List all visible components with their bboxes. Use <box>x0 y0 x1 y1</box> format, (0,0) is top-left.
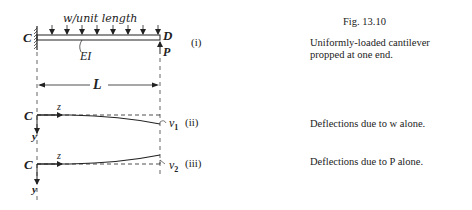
left-end-label: C <box>23 30 32 46</box>
origin-label: C <box>24 157 33 173</box>
stiffness-label: EI <box>80 49 91 64</box>
figure-caption-line-2: propped at one end. <box>310 49 393 61</box>
deflection-label: v1 <box>169 116 178 132</box>
beam-diagram <box>0 0 472 210</box>
diagram-tag-iii: (iii) <box>185 157 202 169</box>
deflection-subscript: 2 <box>174 165 178 174</box>
y-axis-label: y <box>32 183 37 195</box>
prop-force-label: P <box>163 45 170 60</box>
load-label: w/unit length <box>63 12 137 25</box>
cantilever-beam <box>34 25 160 200</box>
right-end-label: D <box>163 28 172 44</box>
figure-number: Fig. 13.10 <box>343 16 386 28</box>
span-label: L <box>93 77 102 93</box>
deflection-label: v2 <box>169 158 178 174</box>
z-axis-label: z <box>57 150 61 161</box>
diagram-tag-i: (i) <box>191 36 201 48</box>
z-axis-label: z <box>57 101 61 112</box>
deflected-curve-w <box>37 115 160 124</box>
diagram-tag-ii: (ii) <box>185 116 198 128</box>
caption-iii: Deflections due to P alone. <box>310 156 423 168</box>
distributed-load-arrows <box>52 25 158 34</box>
y-axis-label: y <box>32 130 37 142</box>
deflected-curve-p <box>37 155 160 164</box>
origin-label: C <box>24 108 33 124</box>
figure-caption-line-1: Uniformly-loaded cantilever <box>310 37 430 49</box>
deflection-w-diagram <box>37 115 166 133</box>
deflection-subscript: 1 <box>174 123 178 132</box>
caption-ii: Deflections due to w alone. <box>310 118 425 130</box>
